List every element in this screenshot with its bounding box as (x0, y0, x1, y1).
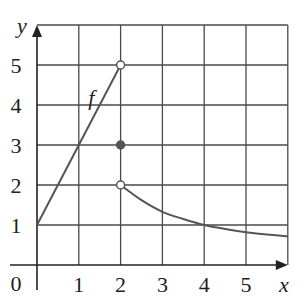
y-tick-label: 4 (11, 93, 22, 118)
open-point (117, 181, 125, 189)
x-tick-label: 4 (199, 272, 210, 297)
x-axis-label: x (278, 272, 289, 297)
function-graph: 01234512345xyf (0, 0, 306, 302)
x-tick-label: 1 (73, 272, 84, 297)
y-axis-label: y (15, 13, 27, 38)
open-point (117, 61, 125, 69)
y-tick-label: 2 (11, 173, 22, 198)
grid (37, 25, 288, 265)
origin-label: 0 (11, 271, 22, 296)
function-label: f (88, 85, 97, 110)
x-tick-label: 2 (115, 272, 126, 297)
y-tick-label: 5 (11, 53, 22, 78)
filled-point (117, 141, 125, 149)
y-tick-label: 1 (11, 213, 22, 238)
x-tick-label: 5 (241, 272, 252, 297)
x-tick-label: 3 (157, 272, 168, 297)
x-axis-arrow-icon (276, 260, 288, 270)
axis-labels: 01234512345xyf (11, 13, 289, 297)
y-tick-label: 3 (11, 133, 22, 158)
y-axis-arrow-icon (32, 25, 42, 37)
